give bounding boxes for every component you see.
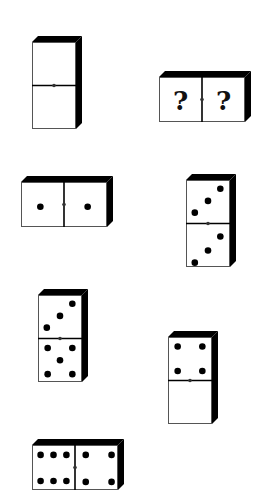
pip [217,185,224,192]
domino-graphic [186,174,236,267]
divider-pin [73,466,77,470]
pip [69,371,76,378]
domino-graphic [32,36,82,129]
divider-pin [200,98,204,102]
pip [192,209,199,216]
divider-pin [206,222,210,226]
question-mark-icon: ? [216,86,231,116]
domino-right-edge [76,36,82,129]
divider-pin [62,203,66,207]
domino-top-edge [32,36,82,42]
domino-one-one [21,176,113,227]
pip [63,478,70,485]
pip [205,247,212,254]
domino-three-three [186,174,236,267]
pip [69,300,76,307]
pip [82,479,89,486]
divider-pin [188,379,192,383]
domino-three-five [38,289,88,382]
domino-top-edge [38,289,88,295]
domino-graphic [32,439,124,490]
pip [205,198,212,205]
pip [37,203,44,210]
pip [174,368,181,375]
domino-unknown-question: ? ? ?? [159,71,251,122]
pip [44,371,51,378]
domino-top-edge [32,439,124,445]
pip [82,452,89,459]
pip [57,357,64,364]
domino-graphic [168,331,218,424]
domino-graphic [38,289,88,382]
domino-six-four [32,439,124,490]
pip [44,324,51,331]
pip [199,368,206,375]
domino-top-edge [159,71,251,77]
domino-four-blank [168,331,218,424]
pip [108,452,115,459]
domino-right-edge [212,331,218,424]
domino-graphic: ?? [159,71,251,122]
pip [57,313,64,320]
domino-blank-blank [32,36,82,129]
question-mark-icon: ? [173,86,188,116]
domino-right-edge [82,289,88,382]
pip [192,259,199,266]
domino-right-edge [118,439,124,490]
domino-graphic [21,176,113,227]
pip [37,452,44,459]
pip [50,478,57,485]
pip [63,452,70,459]
domino-right-edge [107,176,113,227]
divider-pin [58,337,62,341]
pip [84,203,91,210]
domino-right-edge [230,174,236,267]
domino-top-edge [186,174,236,180]
pip [108,479,115,486]
pip [174,343,181,350]
divider-pin [52,84,56,88]
domino-top-edge [168,331,218,337]
pip [217,233,224,240]
pip [50,452,57,459]
pip [69,345,76,352]
pip [199,343,206,350]
pip [44,345,51,352]
pip [37,478,44,485]
domino-right-edge [245,71,251,122]
domino-top-edge [21,176,113,182]
